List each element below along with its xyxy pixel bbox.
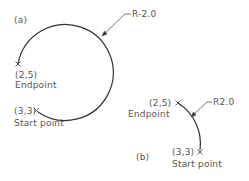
endpoint-label-b: Endpoint <box>128 109 170 119</box>
startpoint-coord-a: (3,3) <box>14 106 36 116</box>
radius-leader-a <box>102 14 131 36</box>
startpoint-coord-b: (3,3) <box>172 147 194 157</box>
minor-arc-b <box>178 103 200 150</box>
endpoint-label-a: Endpoint <box>15 80 57 90</box>
radius-label-b: R2.0 <box>213 97 234 107</box>
startpoint-marker-b <box>198 150 203 155</box>
arc-diagram: (a) R-2.0 (2,5) Endpoint (3,3) Start poi… <box>0 0 249 181</box>
endpoint-coord-b: (2,5) <box>149 98 171 108</box>
endpoint-marker-b <box>176 101 181 106</box>
panel-b-label: (b) <box>136 152 149 162</box>
startpoint-label-b: Start point <box>172 159 222 169</box>
radius-leader-b <box>191 102 212 117</box>
diagram-canvas <box>0 0 249 181</box>
panel-a-label: (a) <box>14 15 27 25</box>
startpoint-label-a: Start point <box>14 118 64 128</box>
endpoint-coord-a: (2,5) <box>15 70 37 80</box>
radius-label-a: R-2.0 <box>132 9 156 19</box>
